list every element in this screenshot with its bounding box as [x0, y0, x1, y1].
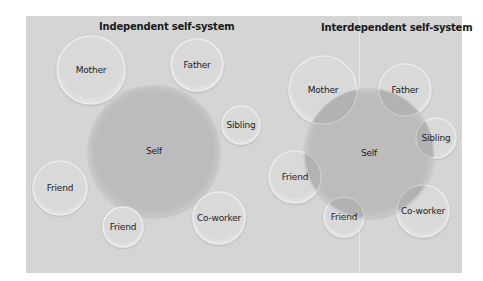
independent-friend-label-3: Friend	[47, 183, 73, 193]
self-system-diagram: SelfMotherFatherSiblingFriendFriendCo-wo…	[0, 0, 483, 281]
independent-father-label-1: Father	[183, 60, 211, 70]
interdependent-mother-label-0: Mother	[308, 85, 339, 95]
interdependent-father-label-1: Father	[391, 85, 419, 95]
independent-friend-label-4: Friend	[110, 222, 136, 232]
independent-self-system: SelfMotherFatherSiblingFriendFriendCo-wo…	[33, 36, 260, 247]
interdependent-self-system: SelfMotherFatherSiblingFriendFriendCo-wo…	[269, 56, 456, 237]
independent-mother-label-0: Mother	[76, 65, 107, 75]
interdependent-sibling-label-2: Sibling	[422, 133, 451, 143]
interdependent-self-label: Self	[361, 148, 378, 158]
interdependent-friend-label-3: Friend	[282, 172, 308, 182]
independent-co-worker-label-5: Co-worker	[197, 213, 242, 223]
independent-self-label: Self	[146, 146, 163, 156]
independent-sibling-label-2: Sibling	[227, 120, 256, 130]
interdependent-friend-label-4: Friend	[331, 212, 357, 222]
interdependent-co-worker-label-5: Co-worker	[401, 206, 446, 216]
